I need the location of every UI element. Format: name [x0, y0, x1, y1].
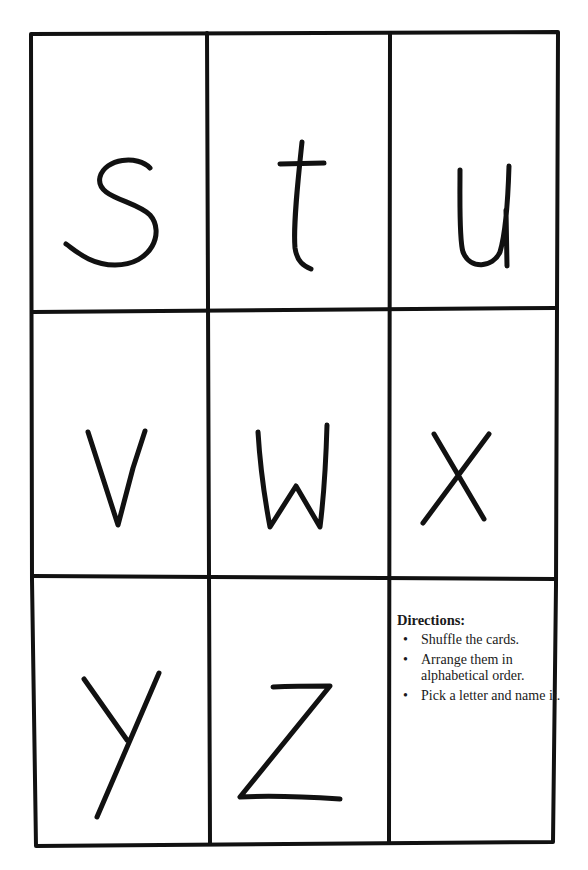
letter-z-glyph [240, 686, 340, 799]
directions-item: Shuffle the cards. [415, 632, 567, 648]
directions-list: Shuffle the cards. Arrange them in alpha… [397, 632, 567, 704]
card-letter-t[interactable] [280, 142, 324, 269]
letter-v-glyph [88, 431, 145, 525]
card-letter-z[interactable] [240, 686, 340, 799]
grid-divider-v1 [207, 33, 210, 844]
grid-divider-h1 [33, 308, 556, 312]
letter-card-grid [0, 0, 588, 870]
card-letter-v[interactable] [88, 431, 145, 525]
directions-panel: Directions: Shuffle the cards. Arrange t… [397, 612, 567, 708]
card-letter-x[interactable] [423, 434, 489, 523]
letter-y-glyph [84, 673, 159, 817]
grid-divider-h2 [33, 576, 556, 579]
card-letter-u[interactable] [460, 166, 509, 266]
letter-s-glyph [66, 160, 156, 265]
directions-item: Arrange them in alphabetical order. [415, 652, 567, 684]
letter-w-glyph [258, 425, 327, 527]
card-letter-y[interactable] [84, 673, 159, 817]
card-letter-s[interactable] [66, 160, 156, 265]
directions-title: Directions: [397, 612, 567, 629]
directions-item: Pick a letter and name it. [415, 688, 567, 704]
letter-t-crossbar [280, 163, 324, 164]
letter-u-glyph [460, 166, 509, 266]
grid-outer-border [31, 32, 558, 846]
letter-x-glyph [423, 434, 489, 523]
card-letter-w[interactable] [258, 425, 327, 527]
grid-divider-v2 [389, 33, 390, 843]
